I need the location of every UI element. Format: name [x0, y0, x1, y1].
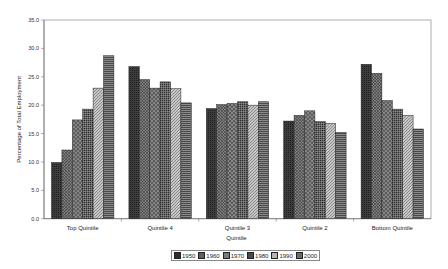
category-label: Bottom Quintile [372, 225, 414, 231]
legend-item-1990: 1990 [271, 252, 292, 259]
legend-label: 1970 [231, 253, 244, 259]
bar-1990 [325, 123, 335, 218]
bar-1970 [382, 101, 392, 219]
y-tick-label: 35.0 [28, 17, 39, 23]
bar-1980 [392, 109, 402, 219]
legend-swatch [247, 252, 254, 259]
category-label: Quintile 2 [302, 225, 328, 231]
legend-swatch [296, 252, 303, 259]
y-tick-label: 15.0 [28, 131, 39, 137]
bar-1960 [217, 105, 227, 219]
x-axis-title: Quintile [226, 235, 247, 241]
legend-label: 1980 [255, 253, 268, 259]
bar-2000 [413, 129, 423, 219]
legend-item-1960: 1960 [198, 252, 219, 259]
legend-swatch [174, 252, 181, 259]
bar-1960 [62, 150, 72, 219]
bar-chart: 0.05.010.015.020.025.030.035.0Percentage… [0, 0, 448, 269]
bar-1950 [129, 67, 139, 219]
bar-2000 [181, 103, 191, 219]
y-tick-label: 5.0 [31, 187, 39, 193]
bar-1980 [160, 82, 170, 219]
legend-swatch [223, 252, 230, 259]
bar-2000 [104, 56, 114, 219]
legend-swatch [198, 252, 205, 259]
bar-1990 [403, 115, 413, 218]
bar-1950 [206, 109, 216, 219]
chart-legend: 195019601970198019902000 [171, 250, 320, 261]
bar-1970 [227, 103, 237, 218]
legend-item-1950: 1950 [174, 252, 195, 259]
category-label: Quintile 3 [225, 225, 251, 231]
category-label: Quintile 4 [147, 225, 173, 231]
y-tick-label: 0.0 [31, 216, 39, 222]
category-label: Top Quintile [67, 225, 99, 231]
y-tick-label: 20.0 [28, 102, 39, 108]
bar-1980 [238, 102, 248, 219]
bar-1980 [315, 122, 325, 219]
bar-1990 [248, 105, 258, 219]
bar-1970 [305, 111, 315, 219]
bar-1980 [83, 109, 93, 219]
bar-1970 [150, 88, 160, 219]
y-tick-label: 30.0 [28, 45, 39, 51]
bar-1990 [171, 89, 181, 219]
legend-label: 1960 [206, 253, 219, 259]
legend-label: 1990 [279, 253, 292, 259]
bar-2000 [258, 102, 268, 219]
bar-1950 [361, 64, 371, 218]
bar-1960 [294, 115, 304, 218]
bar-1960 [139, 80, 149, 219]
legend-label: 2000 [304, 253, 317, 259]
legend-item-2000: 2000 [296, 252, 317, 259]
y-tick-label: 10.0 [28, 159, 39, 165]
legend-item-1980: 1980 [247, 252, 268, 259]
legend-label: 1950 [182, 253, 195, 259]
bar-1950 [52, 162, 62, 218]
y-axis-title: Percentage of Total Employment [16, 76, 22, 163]
legend-swatch [271, 252, 278, 259]
bar-1970 [72, 120, 82, 219]
bar-1950 [284, 121, 294, 219]
legend-item-1970: 1970 [223, 252, 244, 259]
y-tick-label: 25.0 [28, 74, 39, 80]
bar-1960 [372, 73, 382, 218]
bar-2000 [336, 132, 346, 218]
bar-1990 [93, 88, 103, 219]
